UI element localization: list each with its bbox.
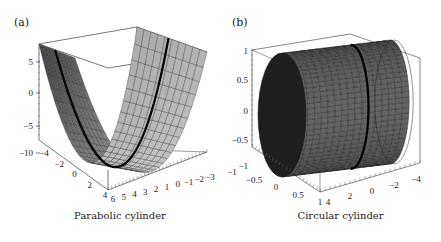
x-tick-label: 2 <box>88 180 93 190</box>
y-tick-label: 6 <box>111 194 116 204</box>
surface-patch <box>327 127 334 133</box>
y-tick-label: 2 <box>154 184 159 194</box>
surface-patch <box>387 77 394 83</box>
surface-patch <box>346 78 354 84</box>
surface-patch <box>321 96 328 102</box>
surface-patch <box>334 126 341 132</box>
surface-patch <box>307 129 314 135</box>
surface-patch <box>389 98 396 104</box>
y-tick-label: 1 <box>165 182 170 192</box>
surface-patch <box>375 89 382 95</box>
surface-patch <box>314 97 321 103</box>
z-tick-label: −10 <box>19 148 34 158</box>
surface-patch <box>313 86 320 92</box>
surface-patch <box>389 93 396 99</box>
y-tick-label: 4 <box>132 189 137 199</box>
surface-patch <box>321 112 328 118</box>
surface-patch <box>395 82 402 88</box>
surface-patch <box>402 102 409 108</box>
surface-patch <box>353 77 361 83</box>
x-tick-label: −2 <box>54 159 64 169</box>
surface-patch <box>307 92 314 98</box>
surface-patch <box>395 108 402 114</box>
x-tick-label: 0.5 <box>292 190 304 200</box>
surface-patch <box>401 118 408 124</box>
x-tick-label: 0 <box>274 182 279 192</box>
surface-patch <box>382 115 389 121</box>
surface-patch <box>396 103 403 109</box>
surface-patch <box>401 81 408 87</box>
surface-patch <box>341 125 348 131</box>
surface-patch <box>341 99 348 105</box>
panel-parabolic-cylinder: 50−5−10−4−20246543210−1−2−3 (a) Paraboli… <box>0 0 220 242</box>
surface-patch <box>305 82 313 88</box>
surface-patch <box>348 114 355 120</box>
x-tick-label: −4 <box>39 148 49 158</box>
surface-patch <box>328 116 335 122</box>
surface-patch <box>374 79 381 85</box>
surface-patch <box>395 114 402 120</box>
x-tick-label: 0 <box>72 169 77 179</box>
surface-patch <box>315 113 322 119</box>
y-tick-label: −1 <box>184 177 194 187</box>
x-minor-tick <box>317 187 318 190</box>
surface-patch <box>348 109 355 115</box>
surface-patch <box>354 124 361 130</box>
surface-patch <box>320 86 327 92</box>
y-tick-label: −2 <box>389 180 399 190</box>
surface-patch <box>380 78 387 84</box>
surface-patch <box>402 86 409 92</box>
z-tick-label: 1 <box>244 46 249 56</box>
z-tick-label: −5 <box>23 121 33 131</box>
surface-patch <box>396 97 403 103</box>
surface-patch <box>402 91 409 97</box>
surface-patch <box>306 87 313 93</box>
surface-patch <box>312 82 320 88</box>
surface-patch <box>386 73 394 79</box>
surface-patch <box>327 90 334 96</box>
surface-patch <box>374 121 381 127</box>
parabolic-cylinder-plot: 50−5−10−4−20246543210−1−2−3 <box>0 0 220 242</box>
surface-patch <box>381 83 388 89</box>
surface-patch <box>355 118 362 124</box>
surface-patch <box>389 104 396 110</box>
x-tick-label: 4 <box>103 190 108 200</box>
surface-patch <box>341 115 348 121</box>
x-minor-tick <box>310 182 311 185</box>
surface-patch <box>395 87 402 93</box>
y-tick-label: 0 <box>175 179 180 189</box>
surface-patch <box>355 108 362 114</box>
surface-patch <box>308 103 315 109</box>
surface-patch <box>347 82 354 88</box>
circular-cylinder-plot: 10.50−0.5−1−1−0.500.51420−2−4 <box>220 0 441 242</box>
y-tick-label: −2 <box>194 174 204 184</box>
surface-patch <box>393 72 401 78</box>
surface-patch <box>334 121 341 127</box>
z-tick-label: 5 <box>29 57 34 67</box>
surface-patch <box>341 120 348 126</box>
surface-patch <box>321 123 328 129</box>
y-tick-label: 4 <box>326 197 331 207</box>
surface-patch <box>395 92 402 98</box>
surface-patch <box>382 99 389 105</box>
surface-patch <box>382 104 389 110</box>
surface-patch <box>320 91 327 97</box>
y-tick-label: −3 <box>205 172 215 182</box>
surface-patch <box>348 103 355 109</box>
surface-patch <box>380 73 388 79</box>
surface-patch <box>401 76 408 82</box>
z-tick-label: 0.5 <box>237 75 249 85</box>
surface-patch <box>328 106 335 112</box>
box-edge <box>39 27 137 44</box>
surface-patch <box>395 119 402 125</box>
surface-patch <box>335 116 342 122</box>
x-minor-tick <box>303 178 304 181</box>
y-tick-label: 5 <box>122 192 127 202</box>
z-tick-label: 0 <box>244 106 249 116</box>
surface-patch <box>347 87 354 93</box>
surface-patch <box>314 102 321 108</box>
parabolic-surface <box>39 27 207 173</box>
surface-patch <box>353 81 360 87</box>
surface-patch <box>314 91 321 97</box>
surface-patch <box>348 98 355 104</box>
